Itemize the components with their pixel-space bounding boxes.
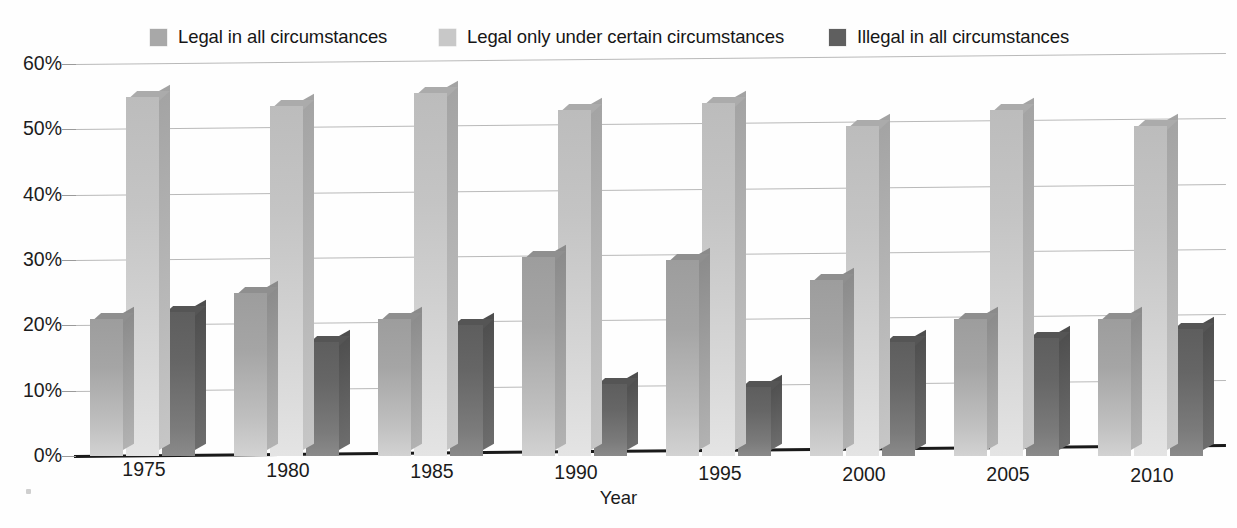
- y-axis-tick-label: 10%: [0, 379, 62, 402]
- chart-legend: Legal in all circumstances Legal only un…: [0, 24, 1237, 50]
- bar-side-face: [483, 313, 494, 450]
- bar-front-face: [666, 260, 699, 456]
- bar: [810, 280, 843, 456]
- bar-side-face: [1131, 306, 1142, 450]
- bar-side-face: [339, 329, 350, 450]
- bar-side-face: [1059, 326, 1070, 450]
- bar-side-face: [1203, 316, 1214, 450]
- bar: [954, 319, 987, 456]
- bar-front-face: [810, 280, 843, 456]
- bar-side-face: [1023, 97, 1034, 450]
- bar-side-face: [735, 91, 746, 450]
- bar: [1098, 319, 1131, 456]
- x-axis-tick-label: 1985: [410, 460, 453, 483]
- bar-front-face: [954, 319, 987, 456]
- x-axis-tick-label: 1990: [554, 461, 597, 484]
- bar-front-face: [234, 293, 267, 456]
- legend-swatch-icon: [150, 29, 167, 46]
- bar-side-face: [843, 267, 854, 450]
- y-axis-tick: [62, 456, 76, 457]
- bar-side-face: [879, 114, 890, 450]
- x-axis-tick-label: 1980: [266, 459, 309, 482]
- bar: [90, 319, 123, 456]
- bar: [522, 257, 555, 456]
- bar-side-face: [123, 306, 134, 450]
- x-axis-tick-label: 2005: [986, 463, 1029, 486]
- x-axis-labels: 19751980198519901995200020052010: [74, 458, 1226, 486]
- legend-swatch-icon: [439, 29, 456, 46]
- x-axis-tick-label: 2010: [1130, 464, 1173, 487]
- bar-side-face: [267, 280, 278, 450]
- bar-side-face: [591, 97, 602, 450]
- scan-speck: [26, 489, 31, 494]
- bar-front-face: [522, 257, 555, 456]
- x-axis-tick-label: 1975: [122, 458, 165, 481]
- bar-side-face: [1167, 114, 1178, 450]
- x-axis-tick-label: 1995: [698, 462, 741, 485]
- y-axis-tick-label: 40%: [0, 183, 62, 206]
- y-axis-tick-label: 60%: [0, 52, 62, 75]
- x-axis-tick-label: 2000: [842, 463, 885, 486]
- bar-side-face: [555, 244, 566, 450]
- bar-side-face: [411, 306, 422, 450]
- y-axis-tick-label: 30%: [0, 248, 62, 271]
- legend-swatch-icon: [829, 29, 846, 46]
- bar-chart: Legal in all circumstances Legal only un…: [0, 0, 1237, 528]
- bar-side-face: [699, 248, 710, 450]
- y-axis-tick-label: 0%: [0, 444, 62, 467]
- bars-layer: [74, 64, 1226, 456]
- legend-label: Illegal in all circumstances: [857, 26, 1069, 48]
- bar-side-face: [915, 329, 926, 450]
- bar-side-face: [303, 94, 314, 450]
- bar: [234, 293, 267, 456]
- bar-side-face: [195, 300, 206, 450]
- legend-label: Legal only under certain circumstances: [467, 26, 784, 48]
- x-axis-title: Year: [0, 487, 1237, 509]
- bar-side-face: [447, 81, 458, 450]
- bar-side-face: [159, 84, 170, 450]
- bar-front-face: [1098, 319, 1131, 456]
- bar: [666, 260, 699, 456]
- bar-front-face: [378, 319, 411, 456]
- bar-front-face: [90, 319, 123, 456]
- plot-area: 0%10%20%30%40%50%60%: [74, 64, 1226, 456]
- bar-side-face: [987, 306, 998, 450]
- legend-item-legal-certain: Legal only under certain circumstances: [439, 24, 784, 50]
- legend-label: Legal in all circumstances: [178, 26, 387, 48]
- y-axis-tick-label: 50%: [0, 117, 62, 140]
- legend-item-illegal-all: Illegal in all circumstances: [829, 24, 1069, 50]
- legend-item-legal-all: Legal in all circumstances: [150, 24, 387, 50]
- y-axis-tick-label: 20%: [0, 313, 62, 336]
- bar: [378, 319, 411, 456]
